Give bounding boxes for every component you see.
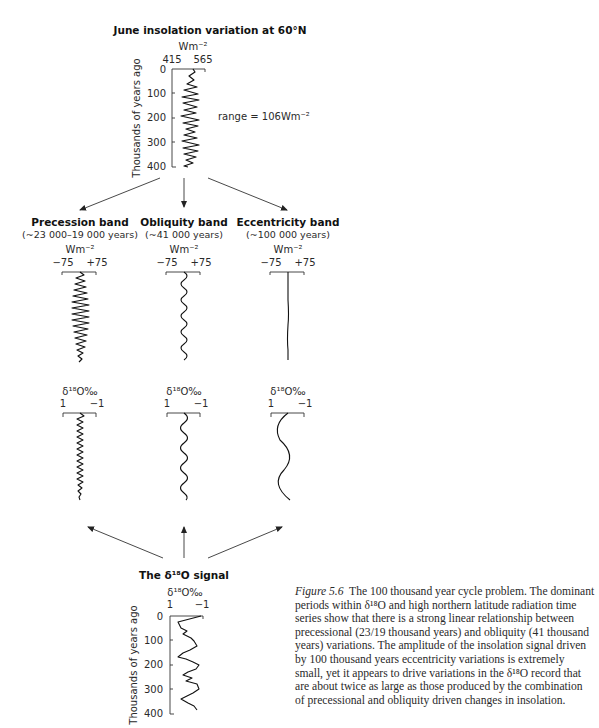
svg-text:δ¹⁸O‰: δ¹⁸O‰ [270, 386, 305, 397]
arrow-to-precession [80, 178, 160, 210]
precession-insolation-wave [72, 272, 89, 362]
bottom-y-axis-label: Thousands of years ago [128, 605, 139, 725]
svg-text:1: 1 [60, 398, 66, 409]
obliquity-insolation-wave [181, 272, 187, 360]
svg-text:+75: +75 [86, 257, 107, 268]
svg-text:−1: −1 [194, 398, 209, 409]
svg-text:(~23 000–19 000 years): (~23 000–19 000 years) [22, 229, 138, 240]
figure-caption: Figure 5.6 The 100 thousand year cycle p… [295, 585, 595, 707]
bottom-y-tick-0: 0 [157, 611, 163, 622]
range-annotation: range = 106Wm⁻² [218, 111, 310, 122]
svg-text:−75: −75 [260, 257, 281, 268]
svg-text:−1: −1 [298, 398, 313, 409]
bottom-panel: The δ¹⁸O signal δ¹⁸O‰ 1 −1 0 100 200 300… [128, 569, 229, 726]
svg-text:Precession band: Precession band [31, 216, 128, 228]
eccentricity-o18-wave [277, 413, 290, 500]
band-obliquity-header: Obliquity band (~41 000 years) Wm⁻² −75 … [140, 216, 227, 268]
svg-text:(~41 000 years): (~41 000 years) [145, 229, 223, 240]
svg-text:1: 1 [268, 398, 274, 409]
top-y-axis-label: Thousands of years ago [131, 58, 142, 178]
svg-text:+75: +75 [190, 257, 211, 268]
svg-text:Eccentricity band: Eccentricity band [237, 216, 340, 228]
top-y-tick-200: 200 [147, 112, 166, 123]
top-y-tick-100: 100 [147, 88, 166, 99]
bottom-panel-unit: δ¹⁸O‰ [167, 587, 202, 598]
top-panel-title: June insolation variation at 60°N [113, 24, 307, 36]
svg-text:−75: −75 [156, 257, 177, 268]
svg-text:Wm⁻²: Wm⁻² [66, 244, 95, 255]
bottom-x-tick-minus1: −1 [195, 599, 210, 610]
eccentricity-insolation-wave [288, 272, 289, 360]
caption-text: The 100 thousand year cycle problem. The… [295, 585, 594, 707]
bottom-y-tick-400: 400 [144, 708, 163, 719]
svg-text:Wm⁻²: Wm⁻² [274, 244, 303, 255]
svg-text:−1: −1 [90, 398, 105, 409]
o18-signal-curve [178, 616, 201, 710]
arrow-from-signal-to-eccentricity [208, 527, 282, 558]
obliquity-o18-wave [181, 413, 188, 500]
obliquity-o18-header: δ¹⁸O‰ 1 −1 [164, 386, 209, 409]
svg-text:Wm⁻²: Wm⁻² [170, 244, 199, 255]
svg-text:−75: −75 [52, 257, 73, 268]
top-y-tick-400: 400 [147, 161, 166, 172]
top-x-tick-565: 565 [193, 54, 212, 65]
top-y-tick-300: 300 [147, 137, 166, 148]
precession-o18-header: δ¹⁸O‰ 1 −1 [60, 386, 105, 409]
top-y-tick-0: 0 [160, 64, 166, 75]
precession-o18-wave [77, 413, 84, 500]
svg-text:(~100 000 years): (~100 000 years) [246, 229, 330, 240]
top-panel: June insolation variation at 60°N Wm⁻² 4… [113, 24, 310, 179]
top-panel-unit: Wm⁻² [179, 41, 208, 52]
insolation-curve [181, 69, 199, 167]
band-precession-header: Precession band (~23 000–19 000 years) W… [22, 216, 138, 268]
bottom-y-tick-200: 200 [144, 659, 163, 670]
bottom-y-tick-300: 300 [144, 684, 163, 695]
svg-text:1: 1 [164, 398, 170, 409]
band-eccentricity-header: Eccentricity band (~100 000 years) Wm⁻² … [237, 216, 340, 268]
svg-text:δ¹⁸O‰: δ¹⁸O‰ [166, 386, 201, 397]
svg-text:Obliquity band: Obliquity band [140, 216, 227, 228]
svg-text:δ¹⁸O‰: δ¹⁸O‰ [62, 386, 97, 397]
bottom-panel-title: The δ¹⁸O signal [139, 569, 229, 581]
eccentricity-o18-header: δ¹⁸O‰ 1 −1 [268, 386, 313, 409]
bottom-x-tick-1: 1 [167, 599, 173, 610]
arrow-from-signal-to-precession [88, 527, 163, 558]
svg-text:+75: +75 [294, 257, 315, 268]
arrow-to-eccentricity [208, 178, 287, 210]
bottom-y-tick-100: 100 [144, 635, 163, 646]
caption-label: Figure 5.6 [295, 585, 344, 598]
